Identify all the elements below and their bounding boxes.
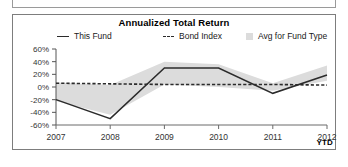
y-axis-tick-label: -20%: [30, 96, 49, 105]
plot-area: 60%40%20%0%-20%-40%-60%20072008200920102…: [13, 45, 337, 149]
partial-panel-above: [12, 0, 336, 8]
solid-line-swatch-icon: [57, 36, 69, 37]
y-axis-tick-label: 40%: [33, 58, 49, 67]
x-axis-ytd-label: YTD: [316, 138, 333, 147]
y-axis-tick-label: -60%: [30, 121, 49, 130]
dashed-line-swatch-icon: [163, 36, 174, 37]
annualized-total-return-panel: Annualized Total Return This Fund Bond I…: [12, 14, 336, 150]
x-axis-tick-label: 2007: [47, 132, 66, 142]
legend-label-avg-for-fund-type: Avg for Fund Type: [258, 31, 327, 41]
y-axis-tick-label: 60%: [33, 45, 49, 54]
x-axis-tick-label: 2011: [264, 132, 283, 142]
legend-label-bond-index: Bond Index: [179, 31, 222, 41]
x-axis-tick-label: 2009: [155, 132, 174, 142]
legend-item-bond-index: Bond Index: [163, 29, 222, 43]
legend-label-this-fund: This Fund: [74, 31, 112, 41]
legend-item-this-fund: This Fund: [57, 29, 112, 43]
y-axis-tick-label: -40%: [30, 108, 49, 117]
chart-plot-svg: 60%40%20%0%-20%-40%-60%20072008200920102…: [13, 45, 337, 149]
chart-legend: This Fund Bond Index Avg for Fund Type: [13, 29, 335, 43]
legend-item-avg-for-fund-type: Avg for Fund Type: [246, 29, 327, 43]
chart-title: Annualized Total Return: [13, 17, 335, 28]
x-axis-tick-label: 2008: [101, 132, 120, 142]
filled-square-swatch-icon: [246, 33, 253, 40]
y-axis-tick-label: 20%: [33, 70, 49, 79]
x-axis-tick-label: 2010: [209, 132, 228, 142]
y-axis-tick-label: 0%: [37, 83, 49, 92]
chart-screenshot: Annualized Total Return This Fund Bond I…: [0, 0, 348, 167]
